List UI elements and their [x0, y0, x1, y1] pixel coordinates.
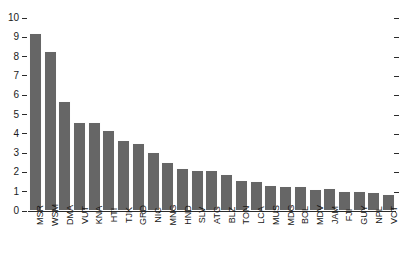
bar-slot: [352, 10, 367, 211]
y-axis-tick-label: 0: [13, 205, 19, 217]
bar-slot: [160, 10, 175, 211]
y-axis-tick-mark: [22, 133, 27, 134]
x-axis-label-slot: ATG: [205, 213, 220, 255]
x-axis-label-slot: WSM: [43, 213, 58, 255]
bar-DMA: [58, 101, 71, 211]
y-axis-tick-mark: [22, 114, 27, 115]
bar-VUT: [73, 122, 86, 211]
bar-NIC: [147, 152, 160, 211]
y-axis-tick-label: 4: [13, 128, 19, 140]
bar-slot: [102, 10, 117, 211]
y-axis-tick-mark: [22, 18, 27, 19]
x-axis-label-slot: SLV: [190, 213, 205, 255]
bar-slot: [190, 10, 205, 211]
x-axis-tick-labels: MSRWSMDMAVUTKNAHTITJKGRDNICMNGHNDSLVATGB…: [28, 213, 396, 255]
x-axis-label-slot: HND: [175, 213, 190, 255]
bar-slot: [264, 10, 279, 211]
x-axis-label-slot: LCA: [249, 213, 264, 255]
bar-ATG: [205, 170, 218, 211]
y-axis-tick-mark: [22, 56, 27, 57]
x-axis-label-slot: HTI: [102, 213, 117, 255]
x-axis-label-slot: KNA: [87, 213, 102, 255]
y-axis-tick-label: 2: [13, 166, 19, 178]
bar-slot: [43, 10, 58, 211]
x-axis-label-slot: NIC: [146, 213, 161, 255]
bar-slot: [278, 10, 293, 211]
y-axis-tick-mark: [22, 153, 27, 154]
x-axis-label-slot: NPL: [367, 213, 382, 255]
y-axis-tick-label: 1: [13, 186, 19, 198]
x-axis-label-slot: BLZ: [219, 213, 234, 255]
bar-slot: [308, 10, 323, 211]
y-axis-tick-mark: [22, 37, 27, 38]
x-axis-label-slot: GRD: [131, 213, 146, 255]
bar-TJK: [117, 140, 130, 211]
y-axis-tick-label: 5: [13, 109, 19, 121]
bar-slot: [322, 10, 337, 211]
y-axis-tick-label: 6: [13, 89, 19, 101]
y-axis-tick-label: 7: [13, 70, 19, 82]
bar-slot: [381, 10, 396, 211]
x-axis-label-slot: BOL: [293, 213, 308, 255]
bar-slot: [28, 10, 43, 211]
bar-slot: [249, 10, 264, 211]
x-axis-label-slot: GUY: [352, 213, 367, 255]
x-axis-label-slot: MSR: [28, 213, 43, 255]
bar-slot: [219, 10, 234, 211]
y-axis-tick-mark: [22, 191, 27, 192]
plot-area: [28, 10, 396, 211]
bar-series: [28, 10, 396, 211]
x-axis-label-slot: MUS: [264, 213, 279, 255]
x-axis-label-slot: MNG: [160, 213, 175, 255]
x-axis-label-slot: VUT: [72, 213, 87, 255]
y-axis-left: 012345678910: [0, 0, 28, 255]
x-axis-label-slot: DMA: [57, 213, 72, 255]
bar-slot: [131, 10, 146, 211]
y-axis-tick-mark: [22, 75, 27, 76]
bar-slot: [367, 10, 382, 211]
y-axis-tick-label: 10: [8, 12, 19, 24]
bar-slot: [205, 10, 220, 211]
bar-slot: [234, 10, 249, 211]
bar-KNA: [88, 122, 101, 211]
x-axis-label-slot: MDG: [278, 213, 293, 255]
y-axis-tick-label: 8: [13, 51, 19, 63]
x-axis-label-slot: TJK: [116, 213, 131, 255]
x-axis-label-slot: FJI: [337, 213, 352, 255]
x-axis-label-slot: JAM: [322, 213, 337, 255]
bar-MSR: [29, 33, 42, 211]
bar-slot: [293, 10, 308, 211]
bar-slot: [87, 10, 102, 211]
bar-slot: [116, 10, 131, 211]
x-axis-label-slot: TON: [234, 213, 249, 255]
bar-chart: 012345678910 MSRWSMDMAVUTKNAHTITJKGRDNIC…: [0, 0, 408, 255]
y-axis-tick-mark: [22, 172, 27, 173]
bar-slot: [57, 10, 72, 211]
y-axis-tick-mark: [22, 95, 27, 96]
bar-slot: [337, 10, 352, 211]
y-axis-tick-mark: [22, 211, 27, 212]
bar-WSM: [44, 51, 57, 211]
bar-slot: [175, 10, 190, 211]
bar-GRD: [132, 143, 145, 211]
bar-slot: [72, 10, 87, 211]
bar-slot: [146, 10, 161, 211]
x-axis-label-slot: MDV: [308, 213, 323, 255]
x-axis-tick-label-VCT: VCT: [389, 206, 399, 224]
y-axis-tick-label: 9: [13, 31, 19, 43]
bar-HTI: [102, 130, 115, 211]
x-axis-label-slot: VCT: [381, 213, 396, 255]
y-axis-tick-label: 3: [13, 147, 19, 159]
